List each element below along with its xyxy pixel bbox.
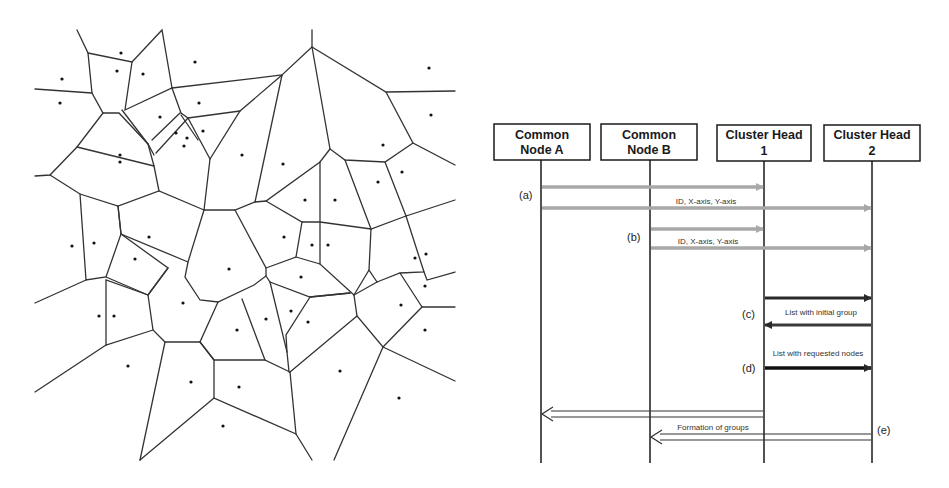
participant-ch1-line2: 1 — [761, 144, 768, 158]
voronoi-diagram — [0, 0, 480, 488]
participant-cluster-head-1: Cluster Head 1 — [717, 125, 811, 161]
participant-cluster-head-2: Cluster Head 2 — [824, 125, 920, 161]
participant-a-line1: Common — [515, 128, 569, 142]
participant-b-line2: Node B — [627, 143, 671, 157]
participant-a-line2: Node A — [520, 143, 563, 157]
voronoi-edges — [35, 30, 455, 460]
step-d-label: (d) — [742, 362, 755, 374]
participant-common-node-b: Common Node B — [601, 124, 697, 160]
participant-common-node-a: Common Node A — [494, 124, 590, 160]
step-c-label: (c) — [742, 308, 755, 320]
sequence-diagram: Common Node A Common Node B Cluster Head… — [480, 0, 949, 488]
message-c-label: List with initial group — [785, 308, 858, 317]
message-b-label: ID, X-axis, Y-axis — [678, 237, 738, 246]
arrow-ch2-to-b-e — [651, 430, 871, 444]
step-b-label: (b) — [627, 231, 640, 243]
participant-ch2-line1: Cluster Head — [833, 128, 910, 142]
message-a-label: ID, X-axis, Y-axis — [676, 197, 736, 206]
participant-ch1-line1: Cluster Head — [725, 128, 802, 142]
step-e-label: (e) — [877, 424, 890, 436]
participant-b-line1: Common — [622, 128, 676, 142]
participant-ch2-line2: 2 — [869, 144, 876, 158]
message-d-label: List with requested nodes — [773, 349, 864, 358]
step-a-label: (a) — [519, 189, 532, 201]
voronoi-sites — [58, 51, 432, 427]
message-e-label: Formation of groups — [677, 423, 749, 432]
arrow-ch1-to-a-e — [542, 407, 763, 421]
